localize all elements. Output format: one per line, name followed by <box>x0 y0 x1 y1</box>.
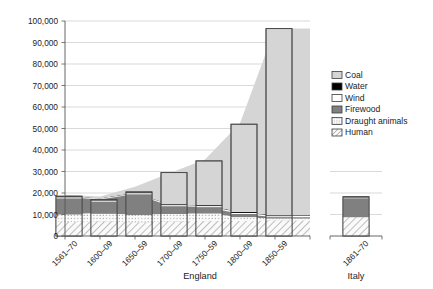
legend-label-draught-animals: Draught animals <box>345 116 408 126</box>
legend-item-wind[interactable]: Wind <box>332 93 365 103</box>
bar-1850-59[interactable] <box>266 29 292 236</box>
water-swatch-icon <box>332 83 342 90</box>
y-tick-70000: 70,000 <box>33 81 59 91</box>
coal-swatch-icon <box>332 72 342 79</box>
y-tick-100000: 100,000 <box>28 16 58 26</box>
y-tick-40000: 40,000 <box>33 145 59 155</box>
bar-1650-59[interactable] <box>126 192 152 236</box>
firewood-swatch-icon <box>332 106 342 113</box>
bar-1700-09[interactable] <box>161 173 187 236</box>
y-tick-60000: 60,000 <box>33 102 59 112</box>
y-tick-80000: 80,000 <box>33 59 59 69</box>
human-swatch-icon <box>332 129 342 136</box>
legend-item-firewood[interactable]: Firewood <box>332 104 381 114</box>
draught-animals-swatch-icon <box>332 118 342 125</box>
legend-label-water: Water <box>345 81 368 91</box>
wind-swatch-icon <box>332 95 342 102</box>
group-label-england: England <box>183 271 217 281</box>
legend-label-human: Human <box>345 127 373 137</box>
bar-1800-09[interactable] <box>231 124 257 236</box>
bar-1750-59[interactable] <box>196 161 222 236</box>
bar-1861-70[interactable] <box>343 197 369 236</box>
y-tick-30000: 30,000 <box>33 167 59 177</box>
y-tick-20000: 20,000 <box>33 188 59 198</box>
bar-1600-09[interactable] <box>91 199 117 236</box>
legend-label-wind: Wind <box>345 93 365 103</box>
bar-1561-70[interactable] <box>56 196 82 236</box>
italy-bars <box>343 197 369 236</box>
chart-container: 100,000 90,000 80,000 70,000 60,000 50,0… <box>0 0 433 289</box>
legend-item-human[interactable]: Human <box>332 127 373 137</box>
group-label-italy: Italy <box>348 271 365 281</box>
legend-item-water[interactable]: Water <box>332 81 368 91</box>
y-tick-10000: 10,000 <box>33 210 59 220</box>
y-tick-0: 0 <box>53 231 58 241</box>
legend-label-coal: Coal <box>345 70 363 80</box>
legend-item-coal[interactable]: Coal <box>332 70 363 80</box>
y-tick-50000: 50,000 <box>33 124 59 134</box>
y-tick-90000: 90,000 <box>33 38 59 48</box>
energy-consumption-chart: 100,000 90,000 80,000 70,000 60,000 50,0… <box>0 0 433 289</box>
legend-label-firewood: Firewood <box>345 104 381 114</box>
